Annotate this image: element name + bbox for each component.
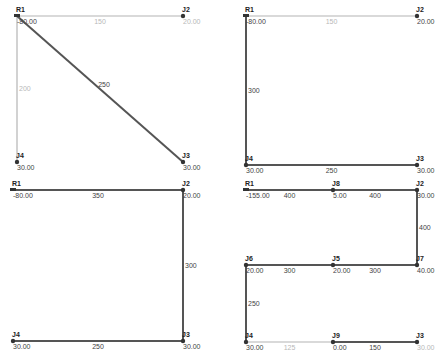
node-name-label: J3	[416, 155, 424, 162]
network-panel-top-left: 150200250R1-80.00J220.00J330.00J430.00	[14, 6, 201, 171]
network-diagrams-canvas: 150200250R1-80.00J220.00J330.00J430.0015…	[0, 0, 440, 362]
node-value-label: 30.00	[246, 344, 264, 351]
node-name-label: J2	[416, 6, 424, 13]
network-panel-bottom-right: 400400400300300250125150R1-155.00J85.00J…	[243, 180, 435, 351]
node-name-label: J2	[416, 180, 424, 187]
pipe-length-label: 250	[98, 81, 110, 88]
node-value-label: -80.00	[13, 192, 33, 199]
node-value-label: 5.00	[333, 192, 347, 199]
pipe-length-label: 300	[185, 262, 197, 269]
reservoir-icon[interactable]	[243, 188, 249, 191]
node-name-label: R1	[12, 180, 21, 187]
pipe-length-label: 150	[326, 18, 338, 25]
pipe-r1-j3[interactable]	[17, 16, 183, 162]
node-name-label: J2	[182, 180, 190, 187]
node-value-label: 20.00	[417, 18, 435, 25]
node-value-label: 20.00	[183, 18, 201, 25]
node-name-label: J5	[332, 255, 340, 262]
pipe-length-label: 200	[19, 85, 31, 92]
node-value-label: 30.00	[183, 164, 201, 171]
node-value-label: 30.00	[13, 343, 31, 350]
network-panel-bottom-left: 350300250R1-80.00J220.00J330.00J430.00	[10, 180, 201, 350]
node-name-label: J4	[245, 155, 253, 162]
node-value-label: 30.00	[417, 192, 435, 199]
pipe-length-label: 250	[326, 167, 338, 174]
node-name-label: J4	[16, 152, 24, 159]
pipe-length-label: 250	[92, 343, 104, 350]
node-value-label: 30.00	[246, 167, 264, 174]
node-value-label: 0.00	[333, 344, 347, 351]
pipe-length-label: 150	[94, 18, 106, 25]
pipe-length-label: 125	[284, 344, 296, 351]
pipe-length-label: 400	[419, 224, 431, 231]
reservoir-icon[interactable]	[243, 14, 249, 17]
pipe-length-label: 250	[248, 300, 260, 307]
node-name-label: J4	[245, 332, 253, 339]
node-value-label: 20.00	[183, 192, 201, 199]
pipe-length-label: 300	[284, 267, 296, 274]
node-value-label: -80.00	[17, 18, 37, 25]
node-value-label: 30.00	[17, 164, 35, 171]
pipe-length-label: 400	[369, 192, 381, 199]
node-name-label: J8	[332, 180, 340, 187]
pipe-length-label: 350	[92, 192, 104, 199]
node-name-label: J2	[182, 6, 190, 13]
node-name-label: J3	[182, 331, 190, 338]
node-value-label: -80.00	[246, 18, 266, 25]
node-value-label: 20.00	[333, 267, 351, 274]
pipe-length-label: 300	[369, 267, 381, 274]
node-value-label: 20.00	[246, 267, 264, 274]
network-panel-top-right: 150300250R1-80.00J220.00J330.00J430.00	[243, 6, 435, 174]
node-name-label: R1	[245, 180, 254, 187]
node-name-label: J4	[12, 331, 20, 338]
reservoir-icon[interactable]	[14, 14, 20, 17]
node-value-label: 30.00	[417, 344, 435, 351]
node-name-label: J3	[182, 152, 190, 159]
pipe-length-label: 400	[284, 192, 296, 199]
node-name-label: J6	[245, 255, 253, 262]
pipe-length-label: 300	[248, 87, 260, 94]
node-value-label: 40.00	[417, 267, 435, 274]
node-name-label: J3	[416, 332, 424, 339]
node-value-label: 30.00	[417, 167, 435, 174]
node-name-label: R1	[245, 6, 254, 13]
node-name-label: J7	[416, 255, 424, 262]
pipe-length-label: 150	[369, 344, 381, 351]
reservoir-icon[interactable]	[10, 188, 16, 191]
node-name-label: R1	[16, 6, 25, 13]
node-value-label: -155.00	[246, 192, 270, 199]
node-value-label: 30.00	[183, 343, 201, 350]
node-name-label: J9	[332, 332, 340, 339]
